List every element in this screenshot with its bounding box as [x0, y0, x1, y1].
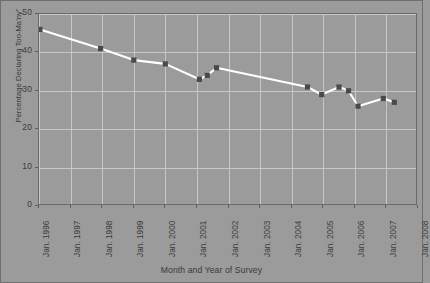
y-axis-tickmark: [35, 51, 38, 52]
x-axis-tickmark: [228, 205, 229, 208]
x-axis-tick-label: Jan. 1996: [42, 195, 51, 257]
data-point-marker: Nov. 2006: 28: [381, 96, 386, 101]
y-axis-tickmark: [35, 90, 38, 91]
x-axis-tickmark: [259, 205, 260, 208]
data-point-marker: Jan. 1999: 38: [131, 58, 136, 63]
y-axis-tickmark: [35, 13, 38, 14]
x-axis-tick-label: Jan. 1999: [136, 195, 145, 257]
x-axis-tickmark: [133, 205, 134, 208]
series-markers: Jan. 1996: 46Dec. 1997: 41Jan. 1999: 38J…: [39, 27, 397, 109]
data-point-marker: Jan. 2000: 37: [163, 61, 168, 66]
y-axis-tick-label: 40: [4, 46, 32, 54]
x-axis-tickmark: [38, 205, 39, 208]
x-axis-tickmark: [101, 205, 102, 208]
data-point-marker: Dec. 1997: 41: [98, 46, 103, 51]
y-axis-tick-label: 20: [4, 123, 32, 131]
data-point-marker: Dec. 2004: 29: [319, 92, 324, 97]
x-axis-tick-label: Jan. 2007: [389, 195, 398, 257]
x-axis-tickmark: [196, 205, 197, 208]
plot-area: Jan. 1996: 46Dec. 1997: 41Jan. 1999: 38J…: [38, 13, 417, 205]
y-axis-tick-label: 10: [4, 162, 32, 170]
x-axis-tickmark: [354, 205, 355, 208]
data-point-marker: Feb. 2001: 33: [197, 77, 202, 82]
data-point-marker: Apr. 2007: 27: [392, 100, 397, 105]
x-axis-title: Month and Year of Survey: [1, 265, 422, 275]
data-point-marker: Aug. 2001: 36: [214, 65, 219, 70]
x-axis-tick-label: Jan. 1997: [73, 195, 82, 257]
data-point-marker: Jul. 2005: 31: [336, 84, 341, 89]
data-series-line: Jan. 1996: 46Dec. 1997: 41Jan. 1999: 38J…: [39, 14, 417, 205]
data-point-marker: Jan. 1996: 46: [39, 27, 43, 32]
x-axis-tickmark: [322, 205, 323, 208]
x-axis-tick-label: Jan. 2001: [199, 195, 208, 257]
y-axis-tick-label: 30: [4, 85, 32, 93]
data-point-marker: Feb. 2006: 26: [355, 104, 360, 109]
x-axis-tickmark: [385, 205, 386, 208]
y-axis-tick-label: 0: [4, 200, 32, 208]
x-axis-tickmark: [70, 205, 71, 208]
x-axis-tickmark: [417, 205, 418, 208]
x-axis-tick-label: Jan. 2008: [421, 195, 430, 257]
y-axis-tickmark: [35, 167, 38, 168]
x-axis-tickmark: [164, 205, 165, 208]
x-axis-tickmark: [291, 205, 292, 208]
x-axis-tick-label: Jan. 2000: [168, 195, 177, 257]
x-axis-tick-label: Jan. 2002: [231, 195, 240, 257]
x-axis-tick-label: Jan. 1998: [105, 195, 114, 257]
x-axis-tick-label: Jan. 2004: [294, 195, 303, 257]
data-point-marker: May 2001: 34: [205, 73, 210, 78]
x-axis-tick-label: Jan. 2003: [263, 195, 272, 257]
x-axis-tick-label: Jan. 2005: [326, 195, 335, 257]
data-point-marker: Oct. 2005: 30: [346, 88, 351, 93]
y-axis-tick-label: 50: [4, 8, 32, 16]
x-axis-tick-label: Jan. 2006: [357, 195, 366, 257]
data-point-marker: Jul. 2004: 31: [305, 84, 310, 89]
y-axis-tickmark: [35, 128, 38, 129]
